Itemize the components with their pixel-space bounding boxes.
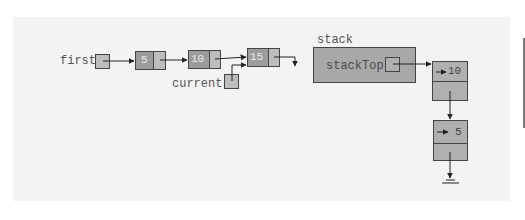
node-link-cell	[268, 48, 280, 67]
node-link-cell	[153, 51, 166, 70]
node-link-cell	[209, 50, 221, 69]
node-info-value: 15	[250, 50, 263, 64]
stack-node-link-cell	[432, 81, 468, 101]
current-pointer-box	[224, 74, 239, 89]
stack-label: stack	[317, 33, 353, 47]
node-info-value: 10	[191, 52, 204, 66]
first-pointer-box	[95, 54, 110, 69]
first-label: first	[60, 54, 96, 68]
diagram-panel	[13, 17, 510, 201]
stack-node-link-cell	[433, 143, 468, 161]
node-info-value: 5	[141, 53, 148, 67]
current-label: current	[172, 77, 222, 91]
stack-node-info-value: 10	[448, 64, 461, 78]
stack-node-info-cell	[433, 120, 468, 144]
stack-node-info-value: 5	[455, 125, 462, 139]
stack-top-label: stackTop	[326, 59, 384, 73]
stack-top-pointer-box	[385, 57, 400, 72]
